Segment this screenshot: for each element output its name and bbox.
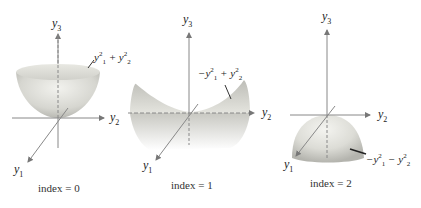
y2-axis-label: y2 [110, 110, 119, 126]
panel-index-1 [128, 33, 254, 160]
index-label: index = 1 [171, 179, 213, 191]
panel-index-2 [290, 30, 370, 163]
saddle-surface-top [130, 80, 250, 113]
dome-surface [292, 115, 364, 163]
panel-index-0 [12, 34, 104, 162]
quadratic-forms-diagram [0, 0, 421, 208]
index-label: index = 2 [310, 177, 352, 189]
y1-axis-label: y1 [284, 157, 293, 173]
y2-axis-label: y2 [262, 105, 271, 121]
y1-axis-label: y1 [14, 162, 23, 178]
surface-equation: y21 + y22 [94, 50, 131, 66]
surface-equation: −y21 + y22 [198, 66, 242, 82]
y1-axis-label: y1 [143, 158, 152, 174]
y3-axis-label: y3 [322, 9, 331, 25]
label-leader [225, 85, 231, 99]
y3-axis-label: y3 [183, 12, 192, 28]
surface-equation: −y21 − y22 [366, 152, 410, 168]
saddle-surface-bottom [130, 113, 250, 150]
y3-axis-label: y3 [52, 16, 61, 32]
index-label: index = 0 [38, 182, 80, 194]
y2-axis-label: y2 [378, 107, 387, 123]
